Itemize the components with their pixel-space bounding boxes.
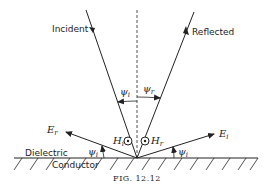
- e-r-label: Er: [46, 124, 58, 137]
- conductor-label: Conductor: [52, 160, 99, 170]
- angle-arc-psi-i-top: [118, 101, 137, 102]
- psi-i-top-label: ψi: [120, 86, 130, 99]
- psi-i-left-label: ψi: [88, 146, 98, 159]
- angle-arc-psi-i-right: [173, 147, 174, 158]
- reflected-label: Reflected: [192, 27, 234, 37]
- reflection-diagram: Incident Reflected Dielectric Conductor …: [0, 0, 265, 192]
- dielectric-label: Dielectric: [25, 148, 68, 158]
- e-i-label: Ei: [218, 128, 229, 141]
- incident-ray: [86, 10, 137, 158]
- psi-r-top-label: ψr: [143, 83, 155, 96]
- h-r-label: Hr: [150, 135, 164, 148]
- h-i-label: Hi: [112, 135, 124, 148]
- e-incident-vector: [137, 134, 214, 158]
- angle-arc-psi-r-top: [137, 97, 160, 98]
- h-reflected-symbol: [141, 137, 149, 145]
- h-incident-symbol: [124, 137, 132, 145]
- psi-i-right-label: ψi: [178, 146, 188, 159]
- conductor-hatching: [14, 158, 258, 170]
- incident-label: Incident: [52, 24, 89, 34]
- angle-arc-psi-i-left: [102, 146, 104, 158]
- figure-caption: FIG. 12.12: [113, 174, 161, 183]
